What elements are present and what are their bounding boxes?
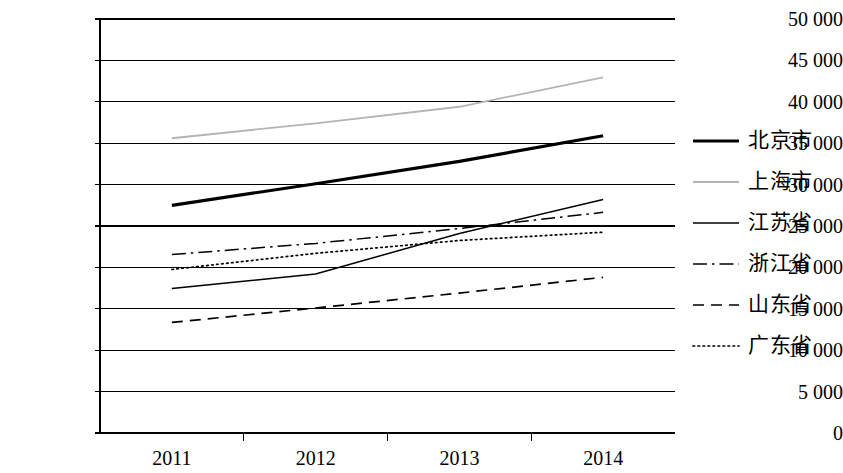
legend-swatch-icon [692,256,740,272]
legend-item[interactable]: 山东省 [692,284,842,325]
legend-label: 浙江省 [748,253,813,274]
y-tick-label: 5 000 [751,382,843,402]
legend-item[interactable]: 江苏省 [692,202,842,243]
legend-swatch-icon [692,133,740,149]
legend-label: 北京市 [748,130,813,151]
y-tick-marks [95,19,100,433]
legend-item[interactable]: 浙江省 [692,243,842,284]
legend-item[interactable]: 广东省 [692,325,842,366]
x-tick-label: 2011 [122,447,222,469]
series-line-0 [172,136,603,206]
legend-swatch-icon [692,174,740,190]
legend-item[interactable]: 上海市 [692,161,842,202]
legend-label: 江苏省 [748,212,813,233]
legend-swatch-icon [692,215,740,231]
legend-swatch-icon [692,297,740,313]
x-tick-label: 2014 [553,447,653,469]
legend-label: 上海市 [748,171,813,192]
x-tick-label: 2012 [266,447,366,469]
series-line-5 [172,232,603,269]
line-chart: 50 00045 00040 00035 00030 00025 00020 0… [0,0,843,473]
legend-label: 山东省 [748,294,813,315]
legend-swatch-icon [692,338,740,354]
series-line-1 [172,77,603,138]
legend-label: 广东省 [748,335,813,356]
series-line-3 [172,212,603,254]
data-series-group [172,77,603,322]
legend-item[interactable]: 北京市 [692,120,842,161]
y-tick-label: 40 000 [751,92,843,112]
series-line-4 [172,277,603,322]
y-tick-label: 45 000 [751,50,843,70]
x-tick-label: 2013 [409,447,509,469]
x-tick-marks [244,433,532,441]
y-tick-label: 0 [751,423,843,443]
chart-legend: 北京市上海市江苏省浙江省山东省广东省 [692,120,842,366]
y-tick-label: 50 000 [751,9,843,29]
series-line-2 [172,200,603,289]
